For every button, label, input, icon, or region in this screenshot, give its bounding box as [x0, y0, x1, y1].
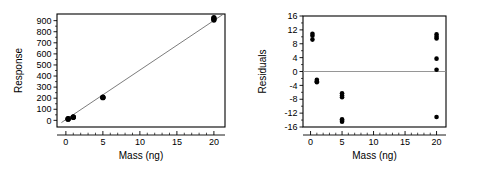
y-axis-tick-label: 0 — [292, 67, 297, 77]
y-axis-tick-label: -8 — [289, 94, 297, 104]
figure-container: 010020030040050060070080090005101520Mass… — [0, 0, 499, 172]
x-axis-tick-label: 5 — [100, 137, 105, 147]
x-axis-tick-label: 10 — [369, 137, 379, 147]
data-point — [100, 95, 105, 100]
x-axis-tick-label: 0 — [308, 137, 313, 147]
data-point — [340, 95, 345, 100]
y-axis-tick-label: 8 — [292, 39, 297, 49]
x-axis-tick-label: 20 — [209, 137, 219, 147]
y-axis-tick-label: 800 — [36, 27, 51, 37]
y-axis-tick-label: 700 — [36, 38, 51, 48]
x-axis-tick-label: 10 — [135, 137, 145, 147]
x-axis-tick-label: 20 — [432, 137, 442, 147]
y-axis-tick-label: 16 — [287, 11, 297, 21]
data-point — [71, 114, 76, 119]
y-axis-tick-label: 200 — [36, 93, 51, 103]
data-point — [315, 80, 320, 85]
x-axis-tick-label: 5 — [340, 137, 345, 147]
residual-plot-svg: -16-12-8-4048121605101520Mass (ng)Residu… — [250, 0, 499, 172]
plot-frame — [57, 14, 225, 127]
y-axis-tick-label: 0 — [46, 116, 51, 126]
y-axis-tick-label: -12 — [284, 108, 297, 118]
calibration-plot-panel: 010020030040050060070080090005101520Mass… — [0, 0, 249, 172]
x-axis-tick-label: 0 — [63, 137, 68, 147]
y-axis-tick-label: 400 — [36, 71, 51, 81]
y-axis-tick-label: -4 — [289, 81, 297, 91]
x-axis-title: Mass (ng) — [352, 150, 396, 161]
calibration-plot-svg: 010020030040050060070080090005101520Mass… — [0, 0, 249, 172]
residual-plot-body: -16-12-8-4048121605101520Mass (ng)Residu… — [257, 11, 446, 161]
y-axis-tick-label: 4 — [292, 53, 297, 63]
x-axis-title: Mass (ng) — [119, 150, 163, 161]
y-axis-tick-label: 300 — [36, 82, 51, 92]
data-point — [310, 37, 315, 42]
y-axis-tick-label: 600 — [36, 49, 51, 59]
data-point — [434, 36, 439, 41]
residual-plot-panel: -16-12-8-4048121605101520Mass (ng)Residu… — [250, 0, 499, 172]
calibration-plot-body: 010020030040050060070080090005101520Mass… — [13, 14, 225, 161]
data-point — [211, 15, 216, 20]
x-axis-tick-label: 15 — [400, 137, 410, 147]
y-axis-title: Response — [13, 48, 24, 93]
y-axis-tick-label: 500 — [36, 60, 51, 70]
y-axis-tick-label: -16 — [284, 122, 297, 132]
y-axis-tick-label: 900 — [36, 16, 51, 26]
y-axis-title: Residuals — [257, 50, 268, 94]
data-point — [434, 67, 439, 72]
data-point — [434, 115, 439, 120]
data-point — [340, 119, 345, 124]
data-point — [434, 56, 439, 61]
y-axis-tick-label: 12 — [287, 25, 297, 35]
regression-fit-line — [61, 15, 222, 123]
x-axis-tick-label: 15 — [172, 137, 182, 147]
y-axis-tick-label: 100 — [36, 104, 51, 114]
data-point — [66, 116, 71, 121]
